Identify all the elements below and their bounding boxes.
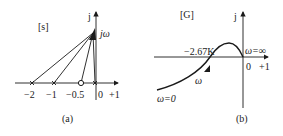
vector-from-minus2 [32, 33, 93, 83]
panel-b: [G] j −2.67K ω=∞ 0 +1 ω ω=0 (b) [154, 9, 270, 125]
plane-label-g: [G] [180, 9, 194, 20]
vector-from-origin [93, 33, 95, 83]
jw-label: jω [98, 28, 110, 39]
diagram-canvas: [s] j jω −2 −1 −0.5 0 +1 (a) [G] j −2.67… [0, 0, 283, 136]
tick-0-b: 0 [246, 61, 251, 72]
crossing-label: −2.67K [184, 46, 215, 57]
caption-b: (b) [236, 113, 248, 125]
omega-inf-label: ω=∞ [245, 45, 266, 56]
panel-a: [s] j jω −2 −1 −0.5 0 +1 (a) [15, 11, 120, 125]
tick-minus2: −2 [24, 89, 35, 100]
omega-label: ω [195, 75, 202, 86]
tick-minus1: −1 [46, 89, 57, 100]
tick-plus1-a: +1 [109, 89, 120, 100]
jw-point-arrow-icon [89, 28, 96, 40]
zero-minus05-icon [78, 80, 83, 85]
imag-axis-label-b: j [233, 11, 237, 22]
plane-label-s: [s] [38, 21, 49, 32]
tick-minus05: −0.5 [66, 89, 84, 100]
tick-plus1-b: +1 [259, 61, 270, 72]
tick-0-a: 0 [98, 89, 103, 100]
caption-a: (a) [62, 113, 73, 125]
omega-zero-label: ω=0 [157, 93, 176, 104]
direction-arrow-icon [204, 65, 210, 72]
imag-axis-label-a: j [87, 11, 91, 22]
